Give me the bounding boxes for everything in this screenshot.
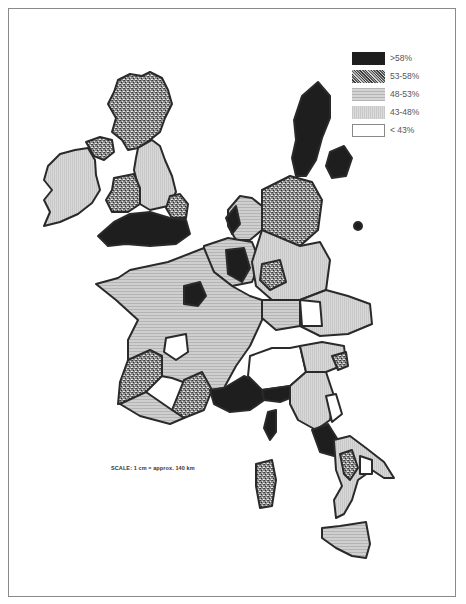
region-denmark [292,82,330,176]
legend-item-above-58: >58% [352,49,452,67]
legend-swatch-speckled [352,70,385,83]
legend-label: >58% [390,53,412,63]
legend-swatch-white [352,124,385,137]
legend-label: < 43% [390,125,414,135]
legend-item-53-58: 53-58% [352,67,452,85]
legend-swatch-solid-black [352,52,385,65]
legend-label: 48-53% [390,89,419,99]
region-baden [262,300,300,330]
legend-label: 53-58% [390,71,419,81]
legend-item-43-48: 43-48% [352,103,452,121]
legend-swatch-horizontal-lines [352,88,385,101]
region-south-italy [334,436,394,518]
region-scotland [108,72,172,150]
region-sardinia [256,460,276,508]
region-east-anglia [166,194,188,218]
region-germany-white [300,300,322,326]
legend: >58% 53-58% 48-53% 43-48% < 43% [352,49,452,139]
legend-label: 43-48% [390,107,419,117]
legend-item-48-53: 48-53% [352,85,452,103]
region-bornholm [354,222,362,230]
region-sicily [322,522,370,558]
region-corsica [264,410,276,440]
region-wales [106,174,140,212]
region-danish-islands [326,146,352,178]
legend-item-below-43: < 43% [352,121,452,139]
legend-swatch-fine-lines [352,106,385,119]
region-ireland [44,148,100,226]
region-basilicata-white [360,456,372,474]
scale-note: SCALE: 1 cm = approx. 140 km [111,465,195,471]
